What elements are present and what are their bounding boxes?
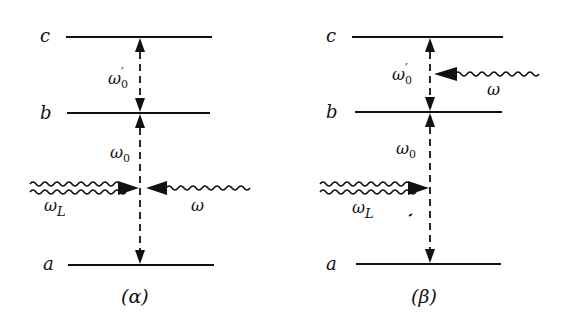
arrowhead-up-icon (425, 38, 435, 52)
arrowhead-down-icon (135, 98, 145, 112)
laser-photon-label: ωL (44, 196, 66, 219)
laser-photon-wave-icon (320, 181, 429, 195)
transition-label-omega0-prime: ω0′ (108, 66, 128, 91)
transition-label-omega0: ω0 (110, 143, 130, 165)
panel-alpha: c b a ω0′ ω0 ωL ω (α) (30, 25, 250, 307)
laser-photon-label: ωL (352, 198, 374, 221)
panel-caption-beta: (β) (411, 285, 437, 307)
transition-label-omega0-prime: ω0′ (392, 62, 412, 87)
field-photon-label: ω (487, 80, 500, 99)
arrowhead-right-icon (408, 181, 429, 195)
panel-beta: c b a ω0′ ω0 ωL ω (β) (320, 25, 539, 307)
laser-photon-wave-icon (30, 181, 139, 195)
field-photon-label: ω (191, 196, 204, 215)
level-a-label: a (43, 253, 54, 274)
panel-caption-alpha: (α) (121, 285, 149, 307)
transition-b-c (135, 38, 145, 112)
energy-level-diagram: c b a ω0′ ω0 ωL ω (α) (0, 0, 563, 320)
arrowhead-up-icon (425, 113, 435, 127)
arrowhead-up-icon (135, 114, 145, 128)
arrowhead-up-icon (135, 38, 145, 52)
level-c-label: c (326, 25, 336, 46)
level-b-label: b (326, 101, 338, 122)
arrowhead-right-icon (118, 181, 139, 195)
transition-b-c (425, 38, 435, 111)
arrowhead-down-icon (135, 250, 145, 264)
speck-mark (409, 214, 412, 216)
level-a-label: a (326, 253, 337, 274)
arrowhead-left-icon (146, 181, 167, 195)
level-b-label: b (40, 102, 52, 123)
transition-label-omega0: ω0 (396, 139, 416, 161)
transition-a-b (135, 114, 145, 264)
field-photon-wave-icon (434, 67, 539, 81)
arrowhead-down-icon (425, 97, 435, 111)
arrowhead-left-icon (434, 67, 457, 81)
arrowhead-down-icon (425, 249, 435, 263)
level-c-label: c (40, 25, 50, 46)
field-photon-wave-icon (146, 181, 250, 195)
